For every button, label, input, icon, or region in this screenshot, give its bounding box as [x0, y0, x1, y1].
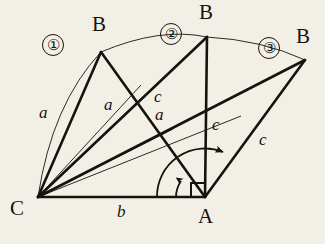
side-label-c-1: c [154, 88, 162, 105]
side-label-a-2: a [104, 96, 113, 113]
vertex-label-a: A [198, 206, 213, 227]
geometry-figure: ① ② ③ C A B B B a a c a c c b [0, 0, 325, 244]
triangle-2-side-a [38, 37, 207, 197]
side-label-a-1: a [39, 104, 48, 121]
trace-radius-c-1 [38, 85, 141, 197]
trace-arc-b2-b3 [207, 37, 305, 60]
angle-arrow-inner [176, 181, 181, 197]
triangle-3-side-a [38, 60, 305, 197]
step-marker-1: ① [42, 34, 64, 56]
vertex-label-b2: B [199, 2, 213, 23]
trace-arc-b1-b2 [101, 34, 207, 52]
angle-arrow-outer [157, 148, 223, 197]
step-marker-3: ③ [258, 37, 280, 59]
vertex-label-c: C [10, 198, 24, 219]
triangle-3-side-c [205, 60, 305, 197]
side-label-a-3: a [155, 106, 164, 123]
side-label-b: b [117, 203, 126, 220]
step-marker-2: ② [160, 23, 182, 45]
triangle-2-side-c [205, 37, 207, 197]
side-label-c-2: c [212, 116, 220, 133]
side-label-c-3: c [259, 131, 267, 148]
triangle-1-side-c [101, 52, 205, 197]
vertex-label-b3: B [296, 26, 310, 47]
vertex-label-b1: B [92, 14, 106, 35]
